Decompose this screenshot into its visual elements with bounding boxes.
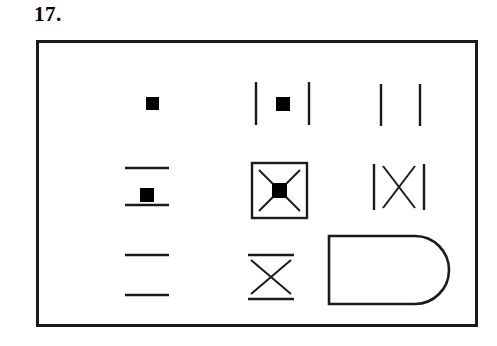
figure-x-in-vertical-brackets bbox=[347, 155, 477, 247]
item-number-label: 17. bbox=[34, 4, 62, 25]
matrix-reasoning-page: 17. small filled black square small fill… bbox=[0, 0, 497, 346]
figure-square-in-horizontal-brackets bbox=[87, 155, 217, 247]
cell-r2c1[interactable]: small filled black square between two ho… bbox=[87, 155, 217, 247]
cell-r2c3[interactable]: X shape between two vertical lines bbox=[347, 155, 477, 247]
figure-filled-square bbox=[87, 63, 217, 155]
figure-empty-vertical-brackets bbox=[347, 63, 477, 155]
cell-r1c1[interactable]: small filled black square bbox=[87, 63, 217, 155]
cell-r3c3[interactable]: D shape: rectangle with rounded right en… bbox=[347, 247, 477, 339]
matrix-frame: small filled black square small filled b… bbox=[36, 40, 478, 327]
cell-r3c1[interactable]: two horizontal lines with empty space be… bbox=[87, 247, 217, 339]
figure-boxed-x-with-square bbox=[217, 155, 347, 247]
figure-x-in-horizontal-brackets bbox=[217, 247, 347, 339]
figure-square-in-vertical-brackets bbox=[217, 63, 347, 155]
cell-r2c2[interactable]: square outline box containing an X with … bbox=[217, 155, 347, 247]
cell-r3c2[interactable]: X shape between two horizontal lines bbox=[217, 247, 347, 339]
cell-r1c2[interactable]: small filled black square between two ve… bbox=[217, 63, 347, 155]
figure-empty-horizontal-brackets bbox=[87, 247, 217, 339]
figure-d-shape bbox=[347, 247, 477, 339]
cell-r1c3[interactable]: two vertical lines with empty space betw… bbox=[347, 63, 477, 155]
matrix-grid: small filled black square small filled b… bbox=[39, 43, 475, 324]
